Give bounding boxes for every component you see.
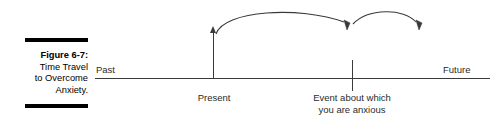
caption-line-3: Anxiety. — [25, 85, 88, 97]
present-label: Present — [198, 92, 231, 103]
event-label-line-2: you are anxious — [313, 104, 391, 116]
event-marker-line — [352, 60, 353, 91]
caption-line-2: to Overcome — [25, 73, 88, 85]
timeline-future-label: Future — [443, 64, 470, 75]
event-label: Event about which you are anxious — [313, 92, 391, 115]
caption-rule-bottom — [25, 104, 88, 108]
present-marker-line — [213, 30, 214, 78]
figure-container: Figure 6-7: Time Travel to Overcome Anxi… — [0, 0, 496, 135]
caption-title: Figure 6-7: — [25, 50, 88, 62]
timeline-axis — [95, 78, 490, 79]
caption-rule-top — [25, 38, 88, 42]
event-to-future-arc-path — [353, 12, 416, 24]
figure-caption-block: Figure 6-7: Time Travel to Overcome Anxi… — [25, 38, 88, 108]
timeline-past-label: Past — [96, 64, 115, 75]
caption-line-1: Time Travel — [25, 62, 88, 74]
event-label-line-1: Event about which — [313, 92, 391, 104]
caption-text: Figure 6-7: Time Travel to Overcome Anxi… — [25, 50, 88, 96]
present-to-event-arc-path — [216, 12, 344, 34]
present-to-event-arrowhead-icon — [344, 20, 350, 30]
event-to-future-arrowhead-icon — [416, 20, 422, 30]
